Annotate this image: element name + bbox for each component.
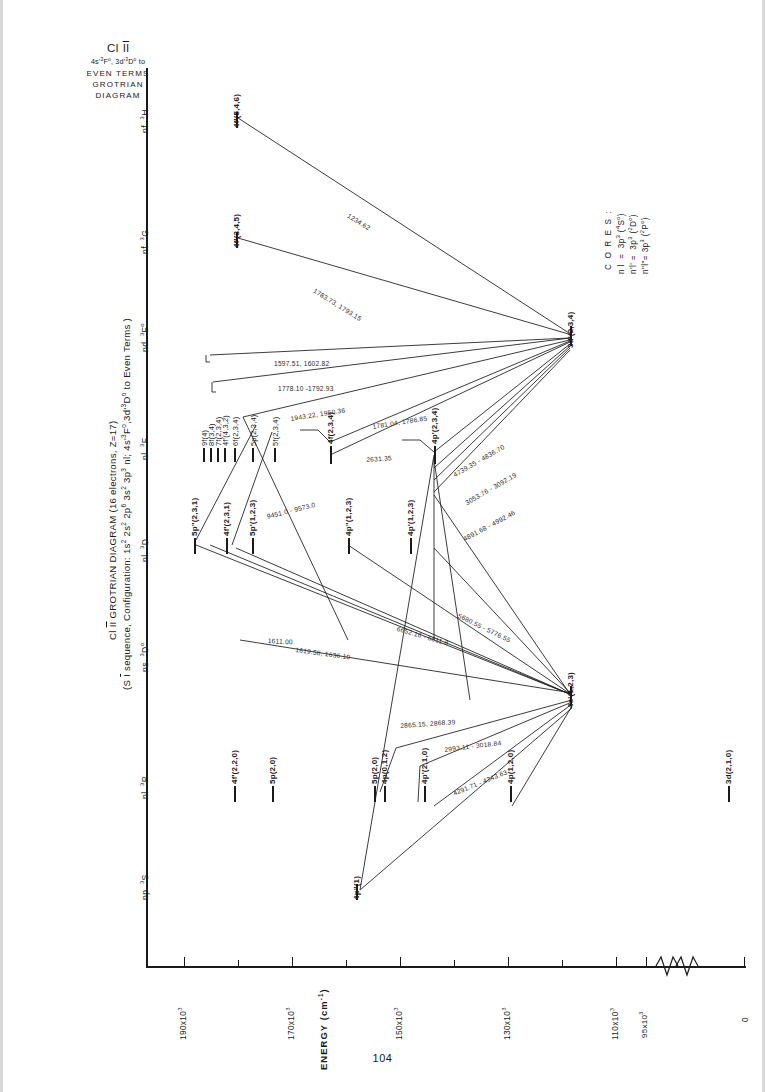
level-label: 4f'(2,3,1) [222,502,231,536]
level-label: 4f'(5,4,6) [232,94,241,128]
level-label: 5p(2,0) [370,757,379,784]
level-label: 4s'(1,2,3) [566,672,575,708]
level-label: 5p'(1,2,3) [248,500,257,536]
level-mark [224,448,226,462]
level-label: 4p'(2,1,0) [420,748,429,784]
level-mark [226,538,228,554]
level-mark [252,538,254,554]
level-mark [194,538,196,554]
level-mark [203,448,205,462]
transition-label: 1778.10 -1792.93 [278,385,334,392]
level-mark [210,448,212,462]
level-mark [510,786,512,802]
level-label: 4f(2,3,4) [326,412,335,444]
level-label: 4p(0,1,2) [380,750,389,784]
transition-label: 1611.00 [268,637,293,645]
level-mark [252,448,254,462]
transition-lines [0,0,765,1092]
level-mark [728,786,730,802]
level-mark [384,786,386,802]
level-label: 3d(2,1,0) [724,750,733,784]
level-label: 3d'(2,3,4) [566,312,575,348]
level-mark [434,446,436,464]
level-mark [274,448,276,462]
level-mark [424,786,426,802]
cores-item-3: n"l"= 3p3 (2Po) [641,217,650,274]
level-label: 5f(2,3,4) [271,417,280,446]
cores-heading: C O R E S : [604,210,613,270]
level-label: 5p"(2,3,1) [190,498,199,536]
page-number: 104 [0,1052,765,1064]
level-label: 5p(2,3,4) [249,415,258,446]
page-canvas: Cl II 4s'3Fo, 3d'3Do to EVEN TERMS GROTR… [0,0,765,1092]
level-label: 4p'(1,2,3) [406,500,415,536]
cores-item-1: n l = 3p3 (4So) [617,213,626,274]
cores-item-2: n'l' = 3p3 (2Do) [629,214,638,274]
level-mark [234,448,236,462]
level-label: 4p(1,2,0) [506,750,515,784]
level-mark [348,538,350,554]
transition-label: 1597.51, 1602.82 [274,360,329,367]
level-label: 4p"(1) [352,876,361,900]
level-label: 4f'(4,3,2) [221,415,230,446]
level-label: 4p'(2,3,4) [430,408,439,444]
level-label: 6f(2,3,4) [231,417,240,446]
level-mark [330,446,332,464]
level-mark [374,786,376,802]
level-mark [234,786,236,802]
level-label: 4p"(1,2,3) [344,498,353,536]
level-label: 4f'(3,4,5) [232,214,241,248]
level-label: 5p(2,0) [268,757,277,784]
level-label: 4f'(2,2,0) [230,750,239,784]
level-mark [272,786,274,802]
level-mark [410,538,412,554]
level-mark [217,448,219,462]
